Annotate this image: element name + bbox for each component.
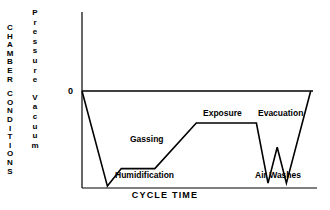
annotation-air-washes: Air Washes xyxy=(255,170,301,180)
annotation-evacuation: Evacuation xyxy=(258,108,303,118)
annotation-humidification: Humidification xyxy=(115,170,174,180)
chart-figure: C H A M B E R C O N D I T I O N S P r e … xyxy=(0,0,330,210)
x-axis-label: CYCLE TIME xyxy=(0,190,330,200)
annotation-exposure: Exposure xyxy=(203,108,242,118)
annotation-gassing: Gassing xyxy=(130,134,164,144)
